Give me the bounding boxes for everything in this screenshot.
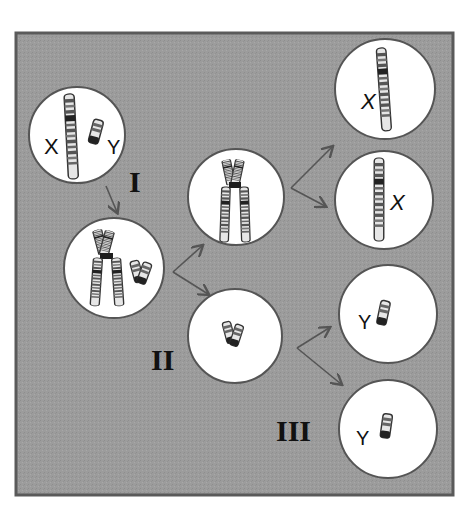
cell-gamete-x1: X (335, 39, 435, 139)
cell-gamete-y2: Y (339, 380, 437, 478)
meiosis-diagram: X Y I II X (0, 0, 467, 512)
stage-label-2: II (151, 343, 174, 376)
cell-replicated (64, 218, 164, 318)
label-y: Y (358, 311, 371, 333)
cell-gamete-x2: X (335, 151, 433, 249)
label-y: Y (107, 136, 120, 158)
label-x: X (360, 89, 377, 114)
stage-label-3: III (276, 414, 311, 447)
cell-meiosis1-y (188, 289, 282, 383)
label-y: Y (356, 427, 369, 449)
cell-parent: X Y (29, 87, 125, 183)
cell-gamete-y1: Y (339, 265, 437, 363)
label-x: X (44, 134, 59, 159)
cell-meiosis1-x (188, 149, 284, 245)
label-x: X (389, 190, 406, 215)
stage-label-1: I (129, 165, 141, 198)
